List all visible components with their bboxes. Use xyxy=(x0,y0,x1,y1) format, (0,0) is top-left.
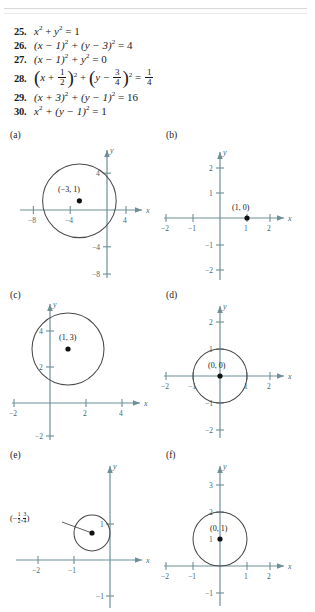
y-tick-label: −1 xyxy=(205,241,213,250)
y-tick-label: −1 xyxy=(205,589,213,598)
y-axis-arrow xyxy=(217,306,223,313)
y-tick-label: 4 xyxy=(39,327,43,336)
numerator: 1 xyxy=(58,68,67,77)
equals-rhs: = 4 xyxy=(118,39,132,51)
x-axis-arrow xyxy=(277,373,284,379)
x-tick-label: −2 xyxy=(161,382,169,391)
center-point xyxy=(89,530,94,535)
equals-rhs: = 0 xyxy=(92,53,106,65)
graph-d: (d) x y −2 −1 1 2 xyxy=(158,288,315,443)
equals-rhs: = 16 xyxy=(118,91,138,103)
y-axis-arrow xyxy=(104,150,110,157)
y-tick-label: 1 xyxy=(100,520,104,529)
center-point xyxy=(217,536,222,541)
center-point-label: (0, 0) xyxy=(208,361,226,370)
x-tick-label: 1 xyxy=(244,224,248,233)
exercise-equation: (x − 1)2 + y2 = 0 xyxy=(34,54,107,66)
exponent: 2 xyxy=(129,70,133,78)
exercise-number: 25. xyxy=(14,26,34,37)
x-tick-label: −8 xyxy=(28,216,36,225)
lhs-term: (x + 3) xyxy=(34,91,65,103)
x-tick-label: −2 xyxy=(161,224,169,233)
x-axis-arrow xyxy=(277,215,284,221)
operator: − xyxy=(103,71,109,83)
x-tick-label: 2 xyxy=(267,224,271,233)
y-axis-label: y xyxy=(222,302,227,311)
graph-c-plot: x y −2 2 4 4 2 −2 (1, 3) xyxy=(2,288,159,443)
exponent: 2 xyxy=(65,90,69,98)
exercise-equation: (x − 1)2 + (y − 3)2 = 4 xyxy=(34,40,132,52)
graph-d-plot: x y −2 −1 1 2 2 1 −1 −2 xyxy=(158,288,315,443)
y-tick-label: 2 xyxy=(209,164,213,173)
y-axis-arrow xyxy=(47,304,53,311)
mid-term: + (y − 1) xyxy=(71,91,112,103)
lhs-term: (x − 1) xyxy=(34,53,65,65)
denominator: 4 xyxy=(113,77,122,87)
y-tick-label: −2 xyxy=(205,266,213,275)
exercise-25: 25. x2 + y2 = 1 xyxy=(14,26,214,38)
x-axis-arrow xyxy=(133,400,140,406)
x-tick-label: −4 xyxy=(65,216,73,225)
x-tick-label: 2 xyxy=(267,382,271,391)
open-paren: ( xyxy=(89,67,95,88)
graph-a: (a) x y −8 −4 4 4 xyxy=(2,128,159,283)
exercise-29: 29. (x + 3)2 + (y − 1)2 = 16 xyxy=(14,92,214,104)
center-point xyxy=(244,215,249,220)
graph-e-center-point-label: (−12,34) xyxy=(10,512,29,524)
exercise-equation: x2 + (y − 1)2 = 1 xyxy=(34,106,107,118)
center-point xyxy=(217,373,222,378)
x-axis-label: x xyxy=(287,372,292,381)
y-axis-label: y xyxy=(222,148,227,157)
x-tick-label: −2 xyxy=(161,572,169,581)
center-point-label: (−3, 1) xyxy=(58,185,80,194)
operator: + xyxy=(80,71,86,83)
fraction-three-fourths: 34 xyxy=(113,68,122,87)
y-axis-label: y xyxy=(222,462,227,471)
graph-e-plot: x y −2 −1 1 −1 xyxy=(2,448,159,612)
denominator: 4 xyxy=(145,77,154,87)
center-point xyxy=(65,346,70,351)
numerator: 3 xyxy=(113,68,122,77)
x-tick-label: −2 xyxy=(32,566,40,575)
x-axis-arrow xyxy=(277,563,284,569)
equals-rhs: = 1 xyxy=(65,25,79,37)
exercise-number: 26. xyxy=(14,40,34,51)
exercise-26: 26. (x − 1)2 + (y − 3)2 = 4 xyxy=(14,40,214,52)
exponent: 2 xyxy=(74,70,78,78)
center-point xyxy=(77,198,82,203)
x-tick-label: 4 xyxy=(119,409,123,418)
label-close-paren: ) xyxy=(27,514,30,523)
y-tick-label: 1 xyxy=(209,345,213,354)
center-point-label: (1, 3) xyxy=(59,333,77,342)
exponent: 2 xyxy=(112,90,116,98)
y-tick-label: −8 xyxy=(92,270,100,279)
x-tick-label: 1 xyxy=(244,572,248,581)
open-paren: ( xyxy=(34,67,40,88)
exercise-28: 28. (x + 12)2 + (y − 34)2 = 14 xyxy=(14,69,214,88)
numerator: 1 xyxy=(145,68,154,77)
x-tick-label: 2 xyxy=(83,409,87,418)
y-tick-label: 1 xyxy=(209,535,213,544)
graph-b-plot: x y −2 −1 1 2 2 1 −1 −2 (1, xyxy=(158,128,315,283)
fraction-one-half: 12 xyxy=(58,68,67,87)
graph-c: (c) x y −2 2 4 4 2 −2 xyxy=(2,288,159,443)
exercise-30: 30. x2 + (y − 1)2 = 1 xyxy=(14,106,214,118)
y-axis-label: y xyxy=(112,462,117,471)
exponent: 2 xyxy=(39,104,43,112)
fraction-one-fourth: 14 xyxy=(145,68,154,87)
y-axis-arrow xyxy=(217,466,223,473)
operator: + xyxy=(48,71,54,83)
close-paren: ) xyxy=(122,67,128,88)
exercise-number: 30. xyxy=(14,106,34,117)
x-axis-label: x xyxy=(143,399,148,408)
graph-e: (e) x y −2 −1 1 −1 xyxy=(2,448,159,603)
var-x: x xyxy=(40,71,45,83)
exercise-equation-list: 25. x2 + y2 = 1 26. (x − 1)2 + (y − 3)2 … xyxy=(14,26,214,120)
x-tick-label: −1 xyxy=(188,224,196,233)
graph-b: (b) x y −2 −1 1 2 xyxy=(158,128,315,283)
x-axis-label: x xyxy=(145,556,150,565)
header-rule xyxy=(4,8,307,14)
exponent: 2 xyxy=(86,104,90,112)
y-tick-label: 2 xyxy=(209,508,213,517)
